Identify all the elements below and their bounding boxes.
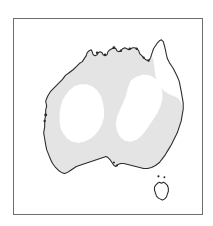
- tasmania-island: [155, 182, 169, 200]
- islet-north-2: [104, 53, 106, 55]
- islet-north-5: [128, 47, 131, 50]
- islet-north-6: [136, 48, 138, 50]
- islet-north-8: [147, 59, 149, 61]
- islet-north-7: [143, 57, 145, 59]
- distribution-range-group: [44, 40, 183, 174]
- islet-south-2: [113, 162, 115, 164]
- islet-west-1: [44, 114, 47, 117]
- islet-north-4: [120, 50, 122, 52]
- islet-west-2: [43, 120, 45, 122]
- islet-north-1: [96, 51, 99, 54]
- islet-south-1: [116, 164, 118, 166]
- australia-distribution-map-svg: [14, 19, 202, 214]
- islet-north-3: [113, 46, 116, 49]
- islet-bass-2: [163, 176, 165, 178]
- map-frame: [13, 18, 203, 215]
- islet-bass-1: [157, 175, 159, 177]
- figure-container: [0, 0, 213, 226]
